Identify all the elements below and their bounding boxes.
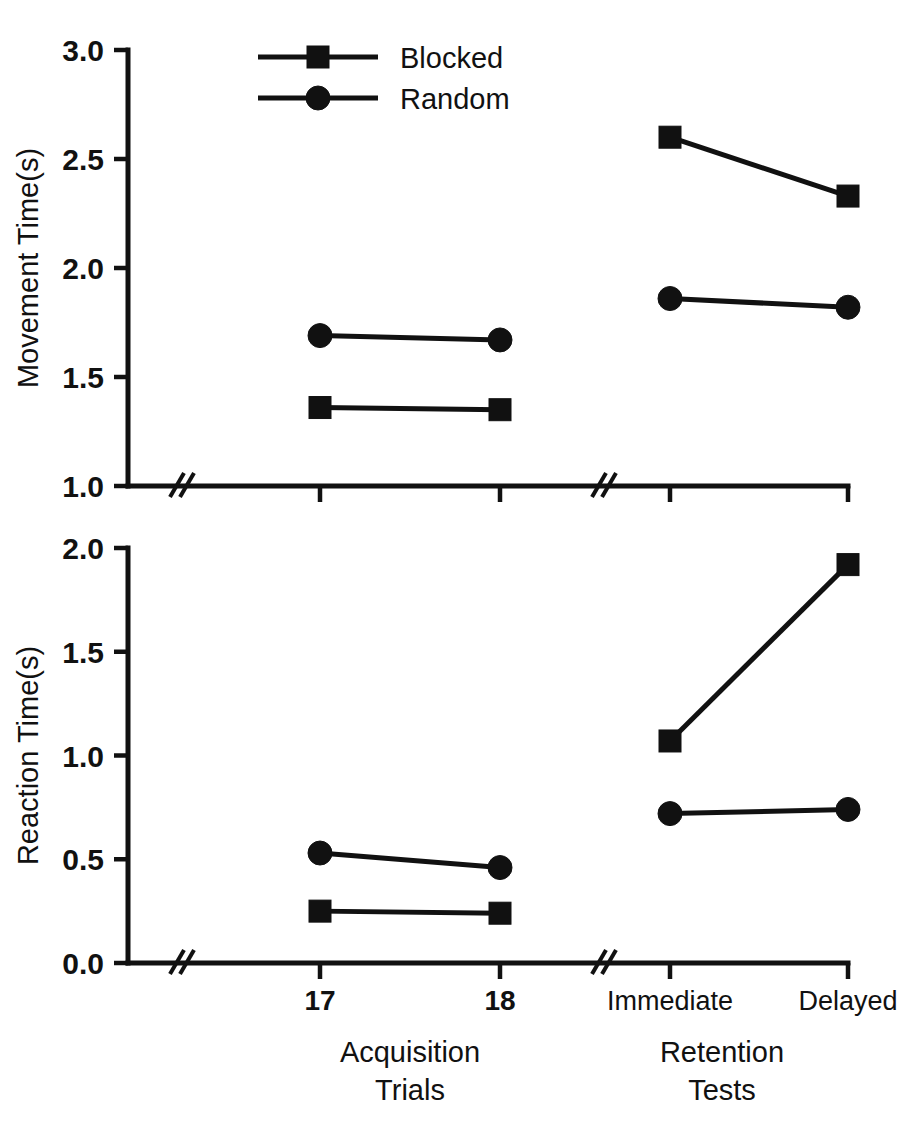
data-point-marker-random [308,324,332,348]
legend-label-random: Random [400,83,510,115]
data-point-marker-blocked [309,397,331,419]
y-tick-label: 2.0 [62,252,104,285]
series-line-blocked [670,137,848,196]
x-group-label-retention: Retention [660,1036,784,1068]
y-tick-label: 1.5 [62,636,104,669]
y-tick-label: 1.0 [62,470,104,503]
data-point-marker-blocked [489,902,511,924]
data-point-marker-random [488,856,512,880]
x-group-label-retention: Tests [688,1074,756,1106]
data-point-marker-random [658,802,682,826]
data-point-marker-blocked [659,730,681,752]
filled-circle-marker [306,86,330,110]
x-axis-labels: 1718ImmediateDelayedAcquisitionTrialsRet… [304,985,897,1106]
x-group-label-acquisition: Acquisition [340,1036,480,1068]
two-panel-line-chart: 1.01.52.02.53.0Movement Time(s)0.00.51.0… [0,0,912,1122]
x-tick-label-18: 18 [484,985,515,1016]
data-point-marker-random [836,797,860,821]
panel-reaction-time: 0.00.51.01.52.0Reaction Time(s) [12,532,860,980]
data-point-marker-random [836,295,860,319]
data-point-marker-random [488,328,512,352]
y-tick-label: 2.0 [62,532,104,565]
filled-square-marker [307,46,329,68]
series-line-random [670,809,848,813]
series-line-random [320,336,500,340]
series-line-blocked [670,565,848,741]
y-tick-label: 0.0 [62,947,104,980]
data-point-marker-blocked [837,554,859,576]
data-point-marker-random [308,841,332,865]
y-tick-label: 1.5 [62,361,104,394]
series-line-random [670,299,848,308]
legend: BlockedRandom [258,42,510,115]
y-axis-title-movement-time: Movement Time(s) [12,148,44,388]
data-point-marker-blocked [837,185,859,207]
data-point-marker-random [658,287,682,311]
series-line-blocked [320,911,500,913]
data-point-marker-blocked [489,399,511,421]
x-tick-label-immediate: Immediate [607,986,733,1016]
y-axis-title-reaction-time: Reaction Time(s) [12,646,44,865]
figure-container: 1.01.52.02.53.0Movement Time(s)0.00.51.0… [0,0,912,1122]
series-line-blocked [320,408,500,410]
y-tick-label: 0.5 [62,843,104,876]
y-tick-label: 1.0 [62,740,104,773]
legend-label-blocked: Blocked [400,42,503,74]
y-tick-label: 3.0 [62,34,104,67]
data-point-marker-blocked [309,900,331,922]
data-point-marker-blocked [659,126,681,148]
series-line-random [320,853,500,868]
x-tick-label-17: 17 [304,985,335,1016]
y-tick-label: 2.5 [62,143,104,176]
x-tick-label-delayed: Delayed [798,986,897,1016]
x-group-label-acquisition: Trials [375,1074,445,1106]
